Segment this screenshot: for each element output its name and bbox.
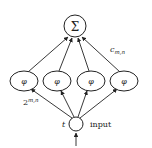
phi-label: φ bbox=[21, 77, 27, 86]
hidden-node: φ bbox=[10, 71, 38, 91]
hidden-node: φ bbox=[110, 71, 138, 91]
phi-label: φ bbox=[54, 77, 60, 86]
edges-hidden-to-output bbox=[28, 37, 120, 72]
hidden-layer: φ φ φ φ bbox=[10, 71, 138, 91]
weight-label-2mn: 2m,n bbox=[23, 97, 39, 107]
output-node: Σ bbox=[64, 15, 86, 37]
edge-h3-out bbox=[78, 38, 89, 71]
sum-icon: Σ bbox=[71, 20, 79, 34]
edge-in-h2 bbox=[61, 91, 74, 117]
hidden-node: φ bbox=[43, 71, 71, 91]
phi-label: φ bbox=[121, 77, 127, 86]
edge-in-h4 bbox=[80, 89, 117, 118]
input-node bbox=[69, 117, 83, 131]
input-variable-t: t bbox=[62, 120, 66, 129]
input-circle bbox=[69, 117, 83, 131]
hidden-node: φ bbox=[77, 71, 105, 91]
edges-input-to-hidden bbox=[31, 89, 117, 118]
edge-h1-out bbox=[28, 37, 68, 72]
weight-label-c: cm,n bbox=[110, 45, 125, 55]
input-label: input bbox=[90, 120, 112, 129]
edge-in-h1 bbox=[31, 89, 72, 118]
phi-label: φ bbox=[88, 77, 94, 86]
neural-network-diagram: Σ φ φ φ φ cm,n 2m,n t input bbox=[0, 0, 152, 148]
